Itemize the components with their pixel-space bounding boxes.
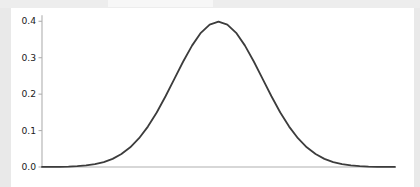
y-tick-label: 0.2 — [21, 88, 36, 99]
normal-distribution-curve — [42, 22, 395, 167]
screen-background: 0.00.10.20.30.4 — [0, 0, 420, 187]
top-band — [0, 0, 420, 8]
y-axis-tick-labels: 0.00.10.20.30.4 — [21, 15, 36, 172]
matplotlib-figure: 0.00.10.20.30.4 — [11, 8, 414, 187]
plot-canvas: 0.00.10.20.30.4 — [11, 8, 414, 187]
y-tick-label: 0.4 — [21, 15, 36, 26]
top-band-highlight — [108, 0, 213, 7]
y-tick-label: 0.3 — [21, 52, 36, 63]
y-tick-label: 0.1 — [21, 125, 36, 136]
y-tick-label: 0.0 — [21, 161, 36, 172]
